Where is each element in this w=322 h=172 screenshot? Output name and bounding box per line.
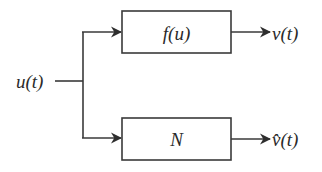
- input-label: u(t): [16, 72, 43, 91]
- system-block-label: f(u): [122, 24, 231, 43]
- model-output-label: v̂(t): [272, 130, 298, 149]
- system-output-label: v(t): [272, 24, 298, 43]
- model-block-label: N: [122, 130, 231, 149]
